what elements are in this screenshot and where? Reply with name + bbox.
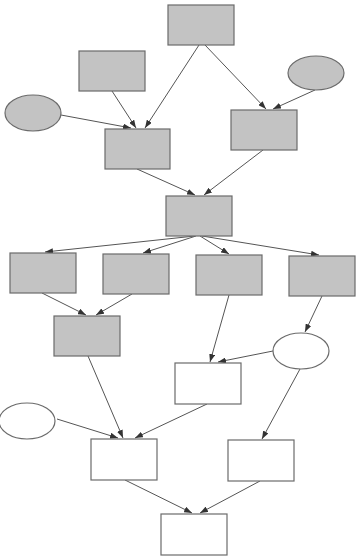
empty-ellipse-node-er2 <box>273 333 329 369</box>
edge-arrow-d3-to-e2 <box>210 295 229 362</box>
nodes-layer <box>0 5 355 555</box>
edge-arrow-er2-to-e2 <box>218 351 273 362</box>
edge-arrow-c-to-d4 <box>202 236 319 255</box>
filled-rect-node-d2 <box>103 254 169 294</box>
filled-rect-node-b1 <box>105 129 170 169</box>
filled-rect-node-d4 <box>289 256 355 296</box>
filled-rect-node-d1 <box>10 253 76 293</box>
flow-diagram <box>0 0 361 560</box>
filled-ellipse-node-er1 <box>288 56 344 90</box>
filled-rect-node-d3 <box>196 255 262 295</box>
empty-ellipse-node-el2 <box>0 403 55 439</box>
edge-arrow-a1-to-b2 <box>205 45 266 109</box>
empty-rect-node-f1 <box>91 439 157 480</box>
filled-rect-node-c <box>166 196 232 236</box>
edge-arrow-c-to-d3 <box>200 236 229 254</box>
edge-arrow-er1-to-b2 <box>273 90 315 109</box>
edge-arrow-d4-to-er2 <box>305 296 322 332</box>
filled-ellipse-node-el1 <box>5 95 61 131</box>
edge-arrow-e2-to-f1 <box>135 404 207 438</box>
edge-arrow-f1-to-g <box>125 480 192 513</box>
edge-arrow-f2-to-g <box>200 481 260 513</box>
filled-rect-node-a1 <box>168 5 234 45</box>
edge-arrow-el1-to-b1 <box>61 115 131 128</box>
edge-arrow-b2-to-c <box>204 150 263 195</box>
edge-arrow-d2-to-e1 <box>96 294 132 315</box>
filled-rect-node-e1 <box>54 316 120 356</box>
edge-arrow-er2-to-f2 <box>262 369 300 439</box>
edge-arrow-a2-to-b1 <box>112 91 136 128</box>
edge-arrow-e1-to-f1 <box>88 356 123 438</box>
filled-rect-node-a2 <box>79 51 145 91</box>
edge-arrow-el2-to-f1 <box>57 419 118 438</box>
empty-rect-node-g <box>161 514 227 555</box>
empty-rect-node-e2 <box>175 363 241 404</box>
edge-arrow-a1-to-b1 <box>145 45 199 128</box>
filled-rect-node-b2 <box>231 110 297 150</box>
empty-rect-node-f2 <box>228 440 294 481</box>
edge-arrow-b1-to-c <box>137 169 195 195</box>
edge-arrow-d1-to-e1 <box>42 293 86 315</box>
